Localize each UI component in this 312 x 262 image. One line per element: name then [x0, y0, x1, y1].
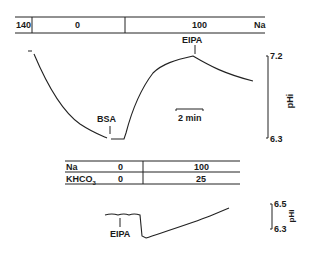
figure-canvas	[0, 0, 312, 262]
eipa-label-bottom: EIPA	[110, 229, 130, 239]
time-scale-label: 2 min	[178, 113, 202, 123]
subscript-3: 3	[93, 180, 96, 186]
y-tick-7-2: 7.2	[270, 51, 283, 61]
na-bar-value-140: 140	[16, 20, 31, 30]
row-khco3-value-25: 25	[196, 174, 206, 184]
ph-trace-top	[28, 51, 253, 139]
bsa-label: BSA	[97, 114, 116, 124]
y-tick-6-5: 6.5	[274, 199, 287, 209]
row-na-value-0: 0	[118, 162, 123, 172]
row-na-label: Na	[66, 162, 78, 172]
time-scale-bar	[176, 109, 203, 111]
ph-scale-bar-top	[266, 56, 268, 138]
na-bar-ion-label: Na	[254, 20, 266, 30]
y-axis-label: pHi	[285, 94, 295, 109]
na-bar-value-0: 0	[75, 20, 80, 30]
row-khco3-value-0: 0	[118, 174, 123, 184]
eipa-label: EIPA	[182, 35, 202, 45]
y-tick-6-3: 6.3	[270, 134, 283, 144]
na-condition-bar	[15, 17, 265, 33]
row-na-value-100: 100	[194, 162, 209, 172]
y-tick-6-3-bottom: 6.3	[274, 224, 287, 234]
na-bar-value-100: 100	[192, 20, 207, 30]
ph-scale-bar-bottom	[270, 204, 272, 229]
khco-text: KHCO	[66, 174, 93, 184]
row-khco3-label: KHCO3	[66, 174, 96, 188]
y-axis-label-bottom: pHi	[287, 210, 297, 223]
